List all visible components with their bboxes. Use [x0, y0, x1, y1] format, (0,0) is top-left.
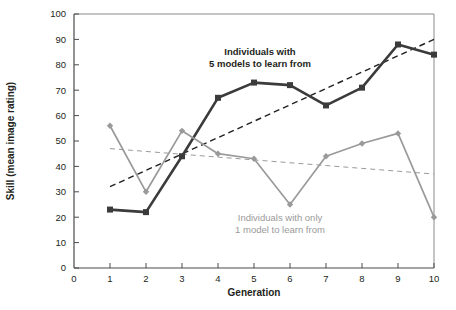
x-axis-title: Generation: [228, 287, 281, 298]
data-point-marker: [107, 207, 113, 213]
data-point-marker: [323, 102, 329, 108]
x-tick-label: 5: [251, 273, 256, 284]
y-tick-label: 40: [55, 161, 66, 172]
data-point-marker: [107, 123, 113, 129]
y-tick-label: 0: [61, 262, 66, 273]
y-tick-label: 60: [55, 110, 66, 121]
data-point-marker: [431, 214, 437, 220]
y-axis: 0102030405060708090100: [50, 8, 79, 273]
annotation-five-models-line-1: 5 models to learn from: [209, 58, 311, 69]
y-tick-label: 10: [55, 237, 66, 248]
x-tick-label: 3: [179, 273, 184, 284]
x-tick-label: 10: [429, 273, 440, 284]
x-axis: 012345678910: [71, 263, 439, 284]
data-point-marker: [287, 82, 293, 88]
y-tick-label: 20: [55, 212, 66, 223]
x-tick-label: 9: [395, 273, 400, 284]
annotation-one-model-line-0: Individuals with only: [238, 212, 323, 223]
data-point-marker: [395, 41, 401, 47]
y-tick-label: 30: [55, 186, 66, 197]
data-point-marker: [179, 153, 185, 159]
x-tick-label: 4: [215, 273, 220, 284]
y-tick-label: 90: [55, 34, 66, 45]
data-point-marker: [143, 209, 149, 215]
data-point-marker: [251, 80, 257, 86]
annotation-five-models-line-0: Individuals with: [224, 46, 295, 57]
y-tick-label: 100: [50, 8, 66, 19]
series-line-0: [110, 44, 434, 212]
x-tick-label: 0: [71, 273, 76, 284]
y-tick-label: 70: [55, 85, 66, 96]
x-tick-label: 6: [287, 273, 292, 284]
x-tick-label: 2: [143, 273, 148, 284]
x-tick-label: 8: [359, 273, 364, 284]
y-axis-title: Skill (mean image rating): [5, 82, 16, 200]
x-tick-label: 1: [107, 273, 112, 284]
y-tick-label: 80: [55, 59, 66, 70]
annotation-one-model-line-1: 1 model to learn from: [235, 224, 325, 235]
y-tick-label: 50: [55, 135, 66, 146]
data-point-marker: [359, 85, 365, 91]
skill-by-generation-line-chart: 0102030405060708090100 012345678910 Indi…: [0, 0, 456, 310]
data-point-marker: [431, 52, 437, 58]
data-point-marker: [215, 95, 221, 101]
x-tick-label: 7: [323, 273, 328, 284]
data-point-marker: [359, 140, 365, 146]
chart-figure: 0102030405060708090100 012345678910 Indi…: [0, 0, 456, 310]
chart-annotations: Individuals with5 models to learn fromIn…: [209, 46, 325, 235]
data-point-marker: [395, 130, 401, 136]
series-line-1: [110, 126, 434, 217]
